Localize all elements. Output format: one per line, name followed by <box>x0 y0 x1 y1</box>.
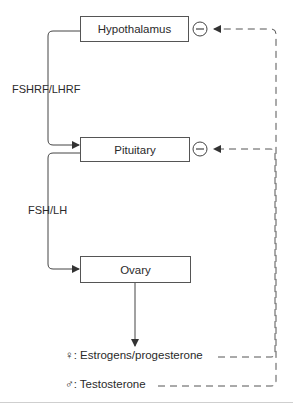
edge-label-fshrf-lhrf: FSHRF/LHRF <box>12 83 80 95</box>
female-hormones-text: : Estrogens/progesterone <box>74 349 203 361</box>
feedback-testosterone-to-hypothalamus <box>158 29 276 386</box>
node-hypothalamus-label: Hypothalamus <box>98 23 172 35</box>
feedback-estrogens-to-pituitary <box>214 149 275 357</box>
male-symbol-icon: ♂ <box>65 378 74 390</box>
output-male-hormones: ♂: Testosterone <box>65 378 146 390</box>
node-ovary: Ovary <box>80 256 191 283</box>
node-hypothalamus: Hypothalamus <box>80 16 189 42</box>
node-ovary-label: Ovary <box>120 264 151 276</box>
node-pituitary-label: Pituitary <box>114 144 156 156</box>
inhibit-icon-hypothalamus <box>193 22 207 36</box>
bottom-divider <box>0 402 293 403</box>
male-hormones-text: : Testosterone <box>74 378 146 390</box>
output-female-hormones: ♀: Estrogens/progesterone <box>65 349 203 361</box>
edge-label-fsh-lh: FSH/LH <box>28 204 67 216</box>
inhibit-icon-pituitary <box>193 142 207 156</box>
female-symbol-icon: ♀ <box>65 349 74 361</box>
node-pituitary: Pituitary <box>80 137 190 162</box>
